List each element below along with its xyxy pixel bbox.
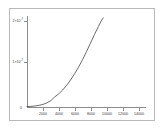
chart-plot-area <box>0 0 164 129</box>
data-series-line <box>27 18 103 107</box>
chart-figure: 0 1×10-7 2×10-7 2000 4000 6000 8000 1000… <box>0 0 164 129</box>
